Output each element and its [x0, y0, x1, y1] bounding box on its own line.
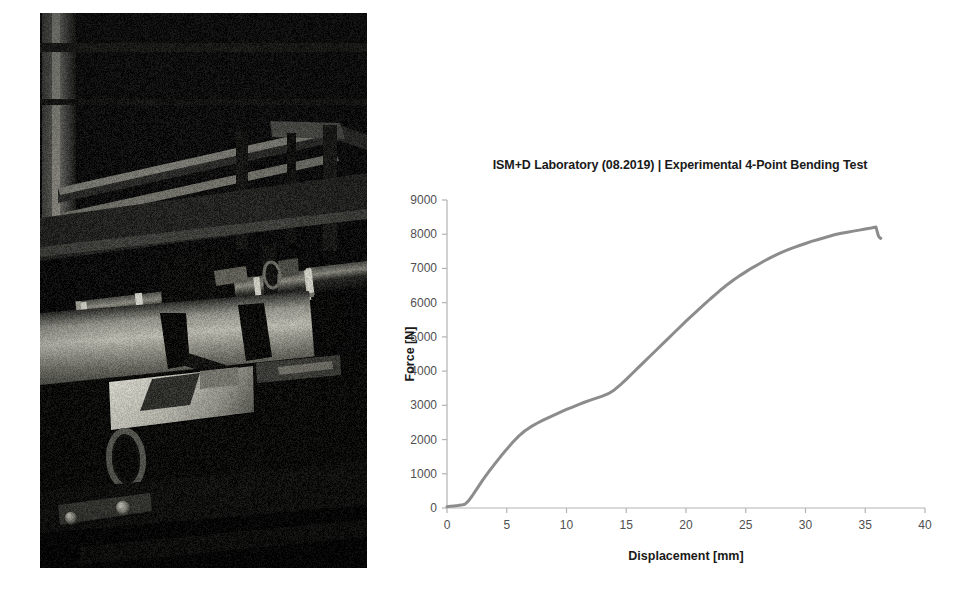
x-tick-label: 40 — [918, 518, 932, 532]
x-tick-label: 35 — [859, 518, 873, 532]
x-tick-label: 0 — [444, 518, 451, 532]
x-tick-label: 30 — [799, 518, 813, 532]
chart-plot-area: 0100020003000400050006000700080009000 05… — [400, 140, 960, 570]
y-tick-label: 2000 — [410, 433, 437, 447]
y-tick-label: 7000 — [410, 261, 437, 275]
y-axis-title: Force [N] — [403, 327, 417, 382]
x-tick-label: 25 — [739, 518, 753, 532]
y-tick-label: 1000 — [410, 467, 437, 481]
x-axis-title: Displacement [mm] — [628, 549, 743, 563]
y-tick-label: 8000 — [410, 227, 437, 241]
force-displacement-series — [447, 227, 881, 507]
y-tick-label: 3000 — [410, 398, 437, 412]
y-tick-label: 9000 — [410, 193, 437, 207]
x-tick-label: 20 — [679, 518, 693, 532]
y-tick-label: 0 — [430, 501, 437, 515]
x-tick-label: 5 — [503, 518, 510, 532]
photograph-image — [40, 13, 367, 568]
bending-test-photograph — [40, 13, 367, 568]
y-tick-label: 6000 — [410, 296, 437, 310]
force-displacement-chart: ISM+D Laboratory (08.2019) | Experimenta… — [400, 140, 960, 570]
x-axis-ticks: 0510152025303540 — [444, 508, 932, 532]
x-tick-label: 15 — [620, 518, 634, 532]
x-tick-label: 10 — [560, 518, 574, 532]
